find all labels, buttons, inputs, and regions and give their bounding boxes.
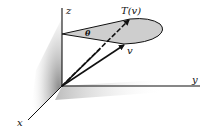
tv-label: T(v): [121, 5, 141, 16]
wall-shadow: [30, 18, 62, 118]
y-axis-label: y: [191, 74, 198, 85]
vector-v: [62, 45, 124, 86]
theta-label: θ: [85, 28, 91, 38]
vector-tv-solid: [62, 49, 100, 86]
floor-shadow: [55, 80, 165, 100]
rotation-diagram: z y x T(v) v θ: [0, 0, 207, 134]
x-axis-label: x: [17, 117, 23, 128]
v-label: v: [127, 45, 133, 56]
rotation-cone: [62, 19, 163, 44]
z-axis-label: z: [65, 5, 72, 16]
